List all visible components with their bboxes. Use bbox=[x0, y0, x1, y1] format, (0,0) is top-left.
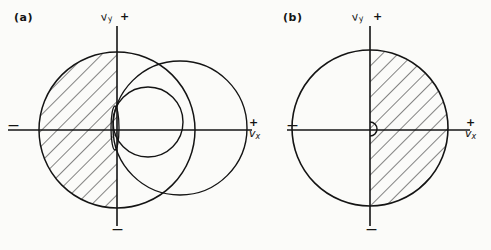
y-axis-plus-b: + bbox=[373, 11, 382, 22]
panel-a bbox=[8, 26, 252, 226]
y-axis-minus-a: — bbox=[112, 224, 123, 235]
y-axis-minus-b: — bbox=[366, 224, 377, 235]
figure-container: (a) (b) vy + vy + + vx + vx — — — — bbox=[0, 0, 491, 250]
right-small-circle-a bbox=[113, 87, 183, 157]
x-axis-label-b: vx bbox=[465, 128, 476, 141]
velocity-space-diagram bbox=[0, 0, 491, 250]
y-axis-plus-a: + bbox=[120, 11, 129, 22]
x-axis-minus-a: — bbox=[8, 120, 19, 131]
panel-label-a: (a) bbox=[14, 12, 33, 23]
x-axis-label-a: vx bbox=[249, 128, 260, 141]
x-axis-subscript-a: x bbox=[256, 132, 261, 141]
panel-b bbox=[287, 26, 470, 226]
x-axis-subscript-b: x bbox=[472, 132, 477, 141]
x-axis-minus-b: — bbox=[287, 120, 298, 131]
panel-label-b: (b) bbox=[283, 12, 302, 23]
